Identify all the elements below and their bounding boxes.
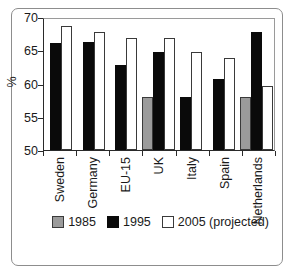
- legend-label: 1995: [123, 215, 151, 229]
- x-tick-label: Spain: [218, 157, 232, 189]
- bar: [251, 32, 262, 150]
- bar: [262, 86, 273, 150]
- bar-group: [77, 19, 109, 150]
- x-tick-mark: [176, 151, 177, 156]
- x-label-slot: Sweden: [44, 157, 77, 212]
- bar: [191, 52, 202, 150]
- y-tick-label: 60: [8, 78, 38, 92]
- x-tick-label: Germany: [86, 157, 100, 208]
- bar: [83, 42, 94, 150]
- bar-group: [110, 19, 142, 150]
- x-label-slot: Netherlands: [241, 157, 274, 212]
- x-label-slot: Germany: [77, 157, 110, 212]
- bar: [50, 43, 61, 150]
- y-tick-label: 55: [8, 111, 38, 125]
- chart-legend: 198519952005 (projected): [43, 215, 278, 229]
- x-tick-mark: [109, 151, 110, 156]
- x-label-slot: EU-15: [110, 157, 143, 212]
- bar: [142, 97, 153, 150]
- bar-group: [240, 19, 273, 150]
- bar: [164, 38, 175, 150]
- x-tick-label: Sweden: [53, 157, 67, 202]
- x-tick-mark: [275, 151, 276, 156]
- legend-swatch-y1985: [52, 216, 64, 228]
- x-tick-mark: [76, 151, 77, 156]
- bar: [180, 97, 191, 150]
- bar-groups: [44, 19, 274, 150]
- legend-label: 2005 (projected): [178, 215, 269, 229]
- x-tick-mark: [142, 151, 143, 156]
- y-tick-label: 50: [8, 144, 38, 158]
- legend-swatch-y1995: [107, 216, 119, 228]
- x-tick-mark: [209, 151, 210, 156]
- bar-group: [208, 19, 240, 150]
- legend-item: 1995: [107, 215, 151, 229]
- bar: [213, 79, 224, 150]
- bar: [240, 97, 251, 150]
- x-label-slot: Spain: [208, 157, 241, 212]
- bar-group: [142, 19, 175, 150]
- x-tick-label: EU-15: [119, 157, 133, 192]
- x-tick-label: UK: [152, 157, 166, 174]
- legend-item: 2005 (projected): [162, 215, 269, 229]
- bar: [115, 65, 126, 150]
- x-tick-mark: [43, 151, 44, 156]
- legend-swatch-y2005: [162, 216, 174, 228]
- x-axis-labels: SwedenGermanyEU-15UKItalySpainNetherland…: [43, 157, 275, 212]
- x-tick-mark: [242, 151, 243, 156]
- legend-label: 1985: [68, 215, 96, 229]
- bar: [126, 38, 137, 150]
- bar: [94, 32, 105, 150]
- bar-group: [175, 19, 207, 150]
- y-tick-label: 65: [8, 44, 38, 58]
- y-tick-label: 70: [8, 11, 38, 25]
- bar: [61, 26, 72, 150]
- bar: [153, 52, 164, 150]
- plot-area: [43, 18, 275, 151]
- legend-item: 1985: [52, 215, 96, 229]
- x-tick-label: Italy: [185, 157, 199, 180]
- bar-group: [45, 19, 77, 150]
- x-label-slot: Italy: [175, 157, 208, 212]
- x-label-slot: UK: [143, 157, 176, 212]
- bar: [224, 58, 235, 150]
